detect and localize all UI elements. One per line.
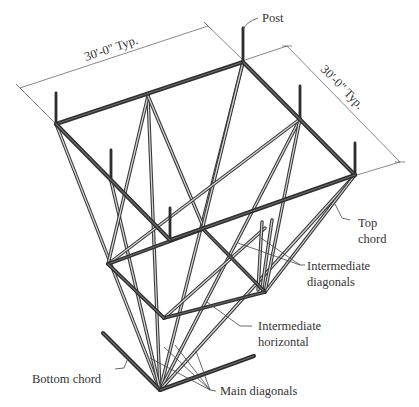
main-diagonals-label: Main diagonals — [220, 384, 298, 398]
top-chord-label-line1: Top — [358, 216, 377, 230]
post-label: Post — [262, 11, 284, 25]
top-chord-label-line2: chord — [358, 232, 387, 246]
intermediate-horizontal-label-line2: horizontal — [258, 335, 309, 349]
truss-diagram: 30'-0" Typ. 30'-0" Typ. Post Top chord I… — [0, 0, 419, 407]
dimension-width-label: 30'-0" Typ. — [83, 33, 140, 64]
intermediate-diagonals-label-line2: diagonals — [307, 275, 355, 289]
intermediate-horizontal-label-line1: Intermediate — [258, 319, 322, 333]
dimension-depth-label: 30'-0" Typ. — [318, 62, 367, 111]
leader-lines — [115, 18, 350, 391]
bottom-chord-label: Bottom chord — [32, 372, 102, 386]
bottom-chord — [103, 333, 254, 390]
intermediate-diagonals-label-line1: Intermediate — [307, 259, 371, 273]
